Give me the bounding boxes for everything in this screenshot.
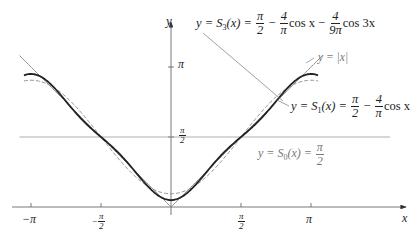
- y-tick-pi: π: [178, 58, 184, 70]
- s3-label: y = S3(x) = π2 − 4πcos x − 49πcos 3x: [196, 10, 375, 37]
- x-tick-pi: π: [306, 213, 312, 225]
- y-axis-label: y: [166, 14, 172, 27]
- abs-pointer-line: [306, 58, 314, 63]
- abs-label: y = |x|: [318, 52, 348, 64]
- x-tick-neg-pi: −π: [22, 213, 36, 225]
- y-tick-half-pi: π2: [178, 126, 187, 146]
- x-tick-half-pi: π2: [237, 212, 246, 232]
- x-axis-label: x: [402, 212, 407, 224]
- s3-pointer-line: [203, 33, 283, 101]
- s1-label: y = S1(x) = π2 − 4πcos x: [291, 93, 410, 120]
- minus-sign: −: [92, 216, 97, 226]
- s0-label: y = S0(x) = π2: [258, 141, 325, 167]
- x-tick-neg-half-pi: −π2: [92, 212, 106, 232]
